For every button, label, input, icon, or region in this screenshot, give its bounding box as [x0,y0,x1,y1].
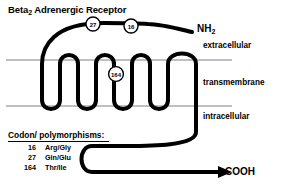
legend: Codon/ polymorphisms: 16 Arg/Gly 27 Gln/… [8,130,114,173]
label-transmembrane: transmembrane [203,78,264,87]
n-terminus-label: NH2 [197,23,215,34]
figure-title: Beta2 Adrenergic Receptor [8,4,126,15]
marker-27: 27 [86,17,100,31]
c-terminus-label: COOH [225,166,255,177]
legend-codon: 164 [8,163,45,173]
legend-codon: 27 [8,153,45,163]
figure-title-subscript: 2 [28,9,32,16]
marker-label: 16 [128,24,135,30]
marker-label: 164 [111,72,122,78]
legend-title: Codon/ polymorphisms: [8,130,109,142]
legend-rows: 16 Arg/Gly 27 Gln/Glu 164 Thr/Ile [8,143,114,173]
legend-polymorphism: Arg/Gly [45,143,71,153]
legend-row: 164 Thr/Ile [8,163,114,173]
marker-16: 16 [124,19,138,33]
legend-polymorphism: Thr/Ile [45,163,67,173]
legend-polymorphism: Gln/Glu [45,153,71,163]
marker-label: 27 [90,22,97,28]
figure-title-main: Beta [8,4,28,15]
label-extracellular: extracellular [203,41,251,50]
legend-codon: 16 [8,143,45,153]
label-intracellular: intracellular [203,112,249,121]
marker-164: 164 [109,67,124,82]
n-terminus-text: NH [197,23,211,34]
legend-row: 27 Gln/Glu [8,153,114,163]
figure-title-rest: Adrenergic Receptor [32,4,126,15]
figure-canvas: 27 16 164 Beta2 Adrenergic Receptor NH2 … [0,0,283,189]
legend-row: 16 Arg/Gly [8,143,114,153]
n-terminus-subscript: 2 [211,28,215,35]
